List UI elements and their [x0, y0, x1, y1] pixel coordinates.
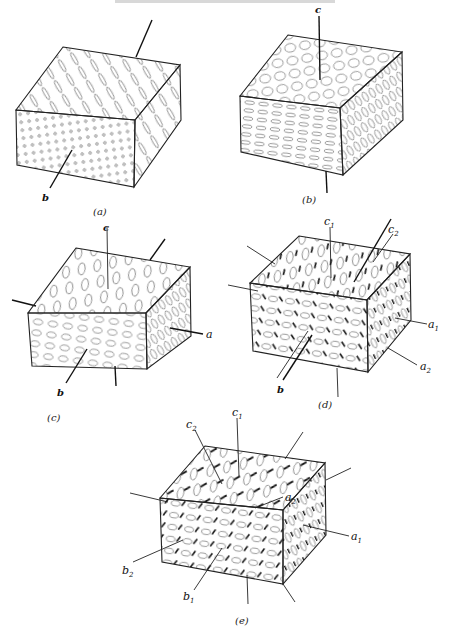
axis-c-c-lower	[115, 366, 116, 386]
label-c2-d: c2	[388, 223, 399, 238]
panel-a: b (a)	[16, 20, 181, 217]
axis-e-lower-right	[283, 584, 295, 602]
caption-e: (e)	[235, 615, 249, 626]
label-b2-e: b2	[122, 564, 134, 579]
caption-a: (a)	[93, 206, 107, 217]
axis-e-lower	[247, 575, 248, 604]
panel-c: c a b (c)	[12, 222, 213, 423]
front-face-b	[240, 96, 343, 175]
front-face-a	[16, 110, 135, 187]
label-a1-d: a1	[428, 318, 439, 333]
label-c-c: c	[103, 222, 109, 233]
label-a-c: a	[206, 328, 213, 341]
axis-e-top-right	[285, 432, 303, 459]
label-b-a: b	[42, 192, 49, 203]
axis-c-a	[136, 20, 152, 57]
axis-c-b-lower	[326, 171, 327, 193]
axis-c-b	[319, 16, 320, 80]
panel-e: c1 c2 a2 a1 b2 b1 (e)	[122, 406, 362, 626]
front-face-e	[160, 498, 283, 584]
caption-d: (d)	[318, 399, 332, 410]
label-c1-d: c1	[324, 215, 335, 230]
axis-b-c-back	[150, 239, 165, 260]
axis-e-right-upper	[326, 468, 351, 480]
axis-a2-d	[388, 348, 417, 365]
figure-canvas: b (a) c (b) c a b (c) c1	[0, 0, 450, 632]
label-b-c: b	[57, 387, 64, 398]
axis-a-c-left	[12, 300, 36, 306]
panel-d: c1 c2 a1 a2 b (d)	[228, 215, 439, 410]
label-c-b: c	[315, 4, 321, 15]
axis-d-left-upper	[247, 246, 275, 264]
panel-b: c (b)	[240, 4, 403, 205]
label-b-d: b	[277, 384, 284, 395]
axis-c-d-lower	[337, 368, 338, 397]
label-c2-e: c2	[186, 418, 197, 433]
caption-b: (b)	[302, 194, 316, 205]
label-a2-d: a2	[420, 360, 432, 375]
label-b1-e: b1	[183, 590, 195, 605]
label-a1-e: a1	[351, 530, 362, 545]
caption-c: (c)	[47, 412, 61, 423]
front-face-c	[28, 313, 147, 369]
label-c1-e: c1	[232, 406, 243, 421]
